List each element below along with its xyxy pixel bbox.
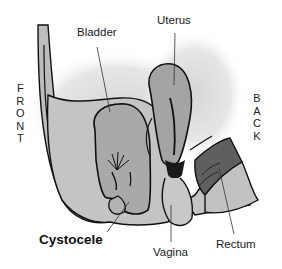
front-letter: O — [16, 107, 25, 120]
front-letter: N — [16, 120, 24, 133]
back-letter: K — [253, 130, 260, 143]
label-uterus: Uterus — [157, 14, 191, 26]
orientation-front: F R O N T — [16, 82, 25, 145]
pelvic-anatomy-diagram — [0, 0, 282, 269]
label-cystocele: Cystocele — [39, 232, 103, 247]
front-letter: R — [16, 95, 24, 108]
label-rectum: Rectum — [216, 238, 256, 250]
label-bladder: Bladder — [77, 26, 117, 38]
front-letter: F — [17, 82, 24, 95]
front-letter: T — [17, 132, 24, 145]
back-letter: C — [253, 117, 261, 130]
back-letter: A — [253, 105, 260, 118]
back-letter: B — [253, 92, 260, 105]
orientation-back: B A C K — [253, 92, 261, 142]
label-vagina: Vagina — [153, 246, 188, 258]
